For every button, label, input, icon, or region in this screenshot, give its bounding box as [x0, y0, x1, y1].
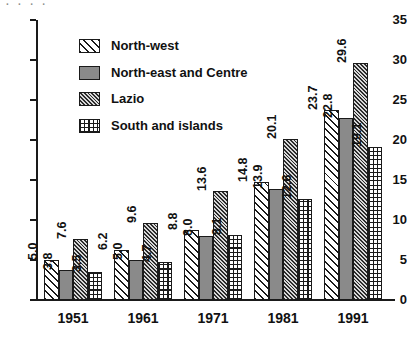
legend-item[interactable]: North-west	[79, 38, 248, 54]
bar-value-label: 22.8	[334, 105, 346, 129]
x-axis-label: 1951	[36, 310, 110, 326]
bar[interactable]: 13.6	[213, 191, 228, 300]
legend-label: North-east and Centre	[111, 66, 248, 80]
legend-label: South and islands	[111, 119, 223, 133]
legend-label: North-west	[111, 39, 179, 53]
bar-value-label: 4.7	[153, 254, 165, 271]
x-axis-label: 1981	[246, 310, 320, 326]
bar[interactable]: 8.1	[228, 235, 243, 300]
legend-item[interactable]: North-east and Centre	[79, 65, 248, 81]
bar[interactable]: 23.7	[324, 110, 339, 300]
bar[interactable]: 19.1	[368, 147, 383, 300]
bar-value-label: 9.6	[138, 215, 150, 232]
bar-value-label: 3.8	[54, 261, 66, 278]
bar-value-label: 7.6	[68, 231, 80, 248]
bar-value-label: 13.9	[264, 177, 276, 201]
bar[interactable]: 8.0	[199, 236, 214, 300]
bar-value-label: 3.5	[83, 263, 95, 280]
x-axis-label: 1991	[316, 310, 390, 326]
bar[interactable]: 3.8	[59, 270, 74, 300]
bar-value-label: 20.1	[278, 127, 290, 151]
bar[interactable]: 3.5	[88, 272, 103, 300]
bar-value-label: 12.6	[293, 187, 305, 211]
legend: North-westNorth-east and CentreLazioSout…	[79, 38, 248, 144]
legend-label: Lazio	[111, 92, 144, 106]
bar-value-label: 29.6	[348, 51, 360, 75]
legend-swatch	[79, 92, 100, 106]
bar[interactable]: 12.6	[298, 199, 313, 300]
bar[interactable]: 13.9	[269, 189, 284, 300]
bar-value-label: 13.6	[208, 179, 220, 203]
bar-group: 14.813.920.112.6	[254, 20, 312, 300]
legend-item[interactable]: South and islands	[79, 118, 248, 134]
top-cropped-text-artifact: · · · ·	[6, 0, 116, 9]
legend-swatch	[79, 39, 100, 53]
legend-swatch	[79, 66, 100, 80]
bar-chart: · · · · 05101520253035 5.03.87.63.56.25.…	[0, 0, 407, 352]
bar-value-label: 8.0	[194, 227, 206, 244]
bar-group: 23.722.829.619.1	[324, 20, 382, 300]
legend-item[interactable]: Lazio	[79, 91, 248, 107]
legend-swatch	[79, 119, 100, 133]
x-axis-label: 1971	[176, 310, 250, 326]
bar[interactable]: 29.6	[353, 63, 368, 300]
bar-value-label: 5.0	[124, 251, 136, 268]
x-axis-label: 1961	[106, 310, 180, 326]
bar[interactable]: 5.0	[129, 260, 144, 300]
bar[interactable]: 20.1	[283, 139, 298, 300]
bar-value-label: 19.1	[363, 135, 375, 159]
bar[interactable]: 4.7	[158, 262, 173, 300]
bar-value-label: 8.1	[223, 227, 235, 244]
